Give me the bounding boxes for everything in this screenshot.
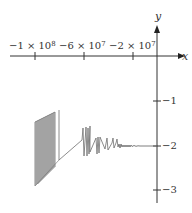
x-axis xyxy=(10,52,185,60)
x-tick-label: −6 × 107 xyxy=(59,41,106,51)
plot-canvas xyxy=(0,0,192,213)
curve xyxy=(35,110,157,186)
x-tick-label-exponent: 7 xyxy=(101,40,105,48)
y-axis xyxy=(153,25,161,203)
x-axis-label: x xyxy=(182,52,188,62)
zigzag-segment xyxy=(90,137,118,154)
x-tick-label-exponent: 8 xyxy=(51,40,55,48)
x-tick-label-exponent: 7 xyxy=(151,40,155,48)
y-tick-label: −1 xyxy=(162,96,177,106)
y-tick-label: −3 xyxy=(162,185,177,195)
x-tick-label-base: −2 × 10 xyxy=(109,40,151,51)
y-axis-label: y xyxy=(155,12,161,22)
x-tick-label: −2 × 107 xyxy=(109,41,156,51)
dense-oscillation-band xyxy=(35,110,59,186)
transition-segment xyxy=(59,126,90,160)
x-tick-label: −1 × 108 xyxy=(9,41,56,51)
x-tick-label-base: −6 × 10 xyxy=(59,40,101,51)
damped-tail xyxy=(118,144,157,148)
y-axis-arrow-icon xyxy=(154,25,160,33)
y-tick-label: −2 xyxy=(162,141,177,151)
x-tick-label-base: −1 × 10 xyxy=(9,40,51,51)
